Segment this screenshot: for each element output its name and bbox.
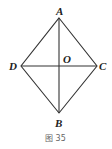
diagram-canvas: A D C B O 图 35 [0,0,112,149]
label-D: D [8,60,17,72]
label-O: O [63,53,71,65]
label-A: A [55,5,63,17]
rhombus-figure: A D C B O 图 35 [0,0,112,149]
label-C: C [99,60,107,72]
label-B: B [54,117,62,129]
figure-caption: 图 35 [45,134,66,143]
